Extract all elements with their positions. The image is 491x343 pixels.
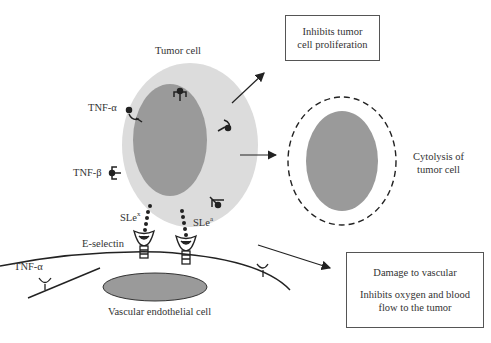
diagram-canvas: Tumor cell TNF-α TNF-β SLex SLea E-selec… bbox=[0, 0, 491, 343]
label-e-selectin: E-selectin bbox=[82, 238, 124, 249]
arrow-vascular bbox=[258, 245, 330, 268]
label-tnf-alpha-bottom: TNF-α bbox=[14, 261, 43, 272]
tumor-cell-nucleus bbox=[133, 84, 207, 196]
label-vascular-endothelial-cell: Vascular endothelial cell bbox=[108, 306, 211, 317]
label-slea: SLea bbox=[193, 215, 213, 228]
receptor-icon bbox=[39, 278, 51, 290]
label-tnf-alpha: TNF-α bbox=[88, 102, 117, 113]
label-slex: SLex bbox=[120, 210, 140, 223]
box-vascular-damage: Damage to vascular Inhibits oxygen and b… bbox=[346, 252, 484, 328]
endothelial-nucleus bbox=[103, 273, 207, 301]
box-inhibits-proliferation: Inhibits tumor cell proliferation bbox=[285, 15, 380, 61]
label-cytolysis: Cytolysis of tumor cell bbox=[413, 150, 464, 176]
label-tumor-cell: Tumor cell bbox=[155, 45, 201, 56]
label-tnf-beta: TNF-β bbox=[73, 167, 102, 178]
cytolysed-cell-nucleus bbox=[306, 111, 378, 211]
